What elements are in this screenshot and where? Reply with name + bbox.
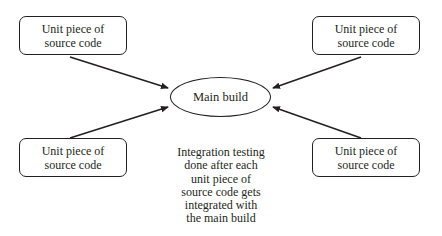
- unit-node-top-right: Unit piece of source code: [312, 16, 420, 55]
- unit-node-top-left: Unit piece of source code: [19, 16, 127, 55]
- arrow-bottom-right: [273, 107, 361, 138]
- caption-line: integrated with: [151, 199, 291, 212]
- unit-node-bottom-right: Unit piece of source code: [312, 138, 420, 177]
- unit-node-label-line1: Unit piece of: [42, 144, 105, 158]
- unit-node-label-line1: Unit piece of: [335, 22, 398, 36]
- unit-node-label-line1: Unit piece of: [335, 144, 398, 158]
- unit-node-label-line2: source code: [338, 36, 395, 50]
- caption-line: unit piece of: [151, 173, 291, 186]
- arrow-top-left: [70, 57, 168, 88]
- unit-node-label-line1: Unit piece of: [42, 22, 105, 36]
- diagram-caption: Integration testing done after each unit…: [151, 146, 291, 226]
- caption-line: the main build: [151, 212, 291, 225]
- arrow-top-right: [273, 57, 361, 88]
- main-build-label: Main build: [193, 90, 248, 105]
- caption-line: done after each: [151, 159, 291, 172]
- unit-node-bottom-left: Unit piece of source code: [19, 138, 127, 177]
- unit-node-label-line2: source code: [45, 36, 102, 50]
- unit-node-label-line2: source code: [338, 158, 395, 172]
- main-build-node: Main build: [170, 77, 271, 117]
- caption-line: source code gets: [151, 186, 291, 199]
- caption-line: Integration testing: [151, 146, 291, 159]
- unit-node-label-line2: source code: [45, 158, 102, 172]
- arrow-bottom-left: [70, 107, 168, 138]
